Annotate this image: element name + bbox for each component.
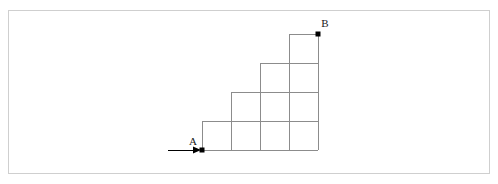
staircase-diagram: A B [0,0,498,184]
point-b-label: B [321,17,328,29]
point-a-marker [200,148,205,153]
point-b-marker [316,32,321,37]
point-a-label: A [189,135,197,147]
entry-arrow [168,147,201,154]
figure-canvas: A B [0,0,498,184]
staircase-grid [202,34,318,150]
